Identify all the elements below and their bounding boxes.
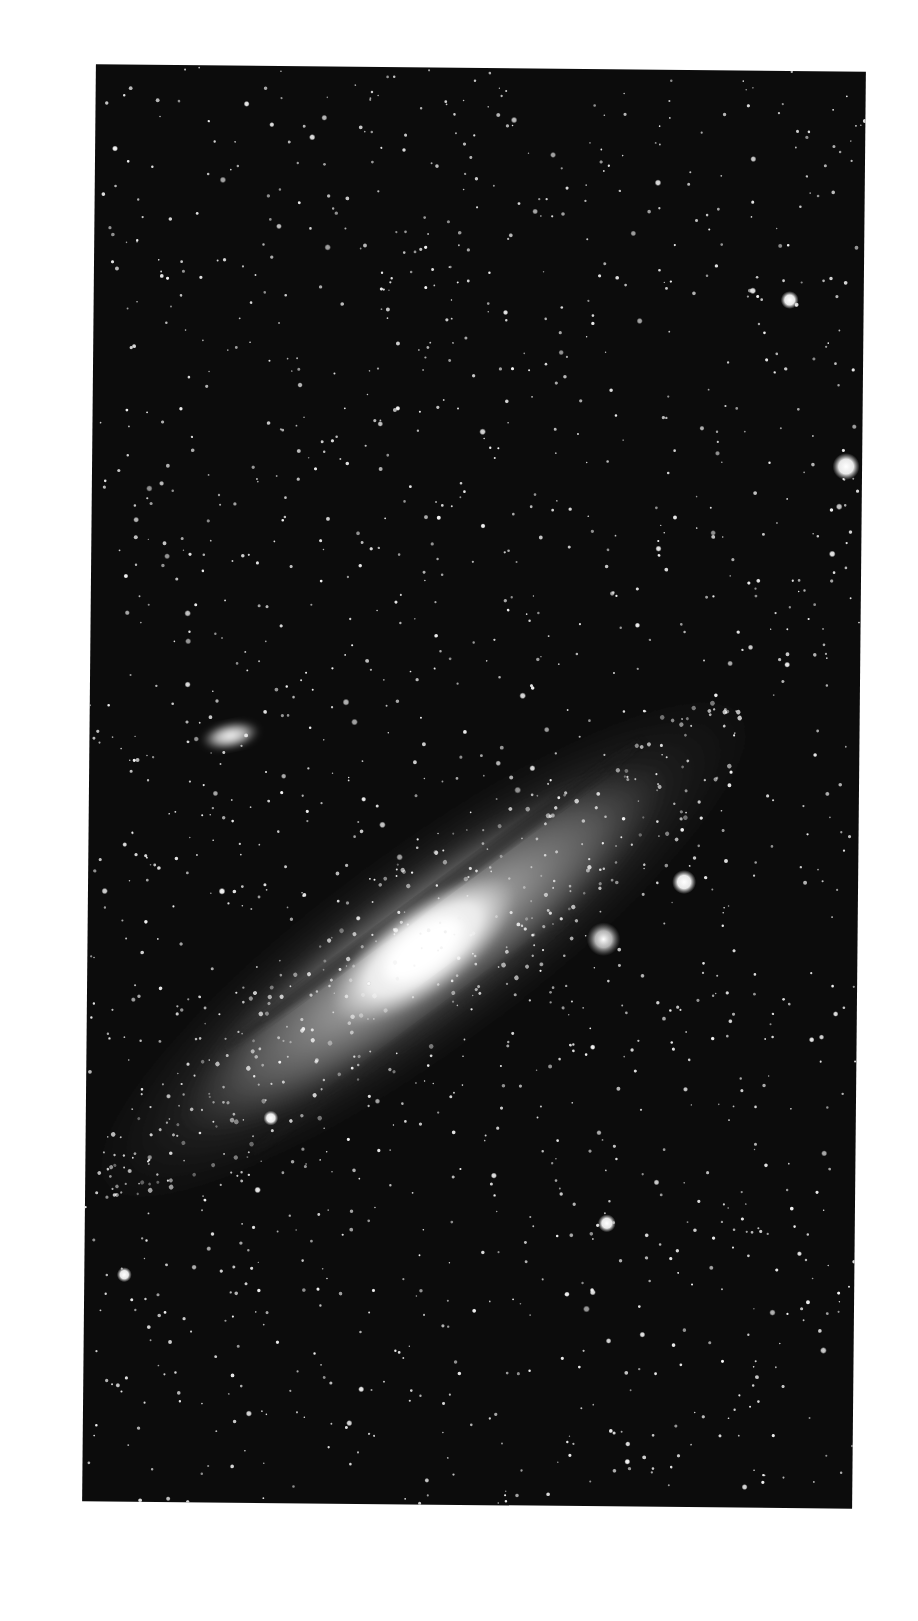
bright-star (672, 870, 696, 894)
bright-star (117, 1267, 132, 1282)
astrophotograph-plate (82, 64, 866, 1508)
bright-star (598, 1214, 616, 1232)
stars (82, 64, 866, 1508)
galaxy-body (82, 616, 824, 1284)
bright-star (781, 291, 799, 309)
bright-star (832, 453, 859, 480)
compact-companion-near-core (587, 922, 621, 956)
bright-star (263, 1110, 278, 1125)
elliptical-companion-upper-left (198, 716, 262, 755)
star-field (82, 64, 866, 1508)
galaxy (82, 609, 825, 1290)
